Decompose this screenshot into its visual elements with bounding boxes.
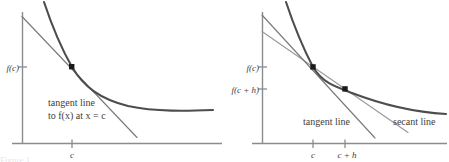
figure-root: f(c) c tangent line to f(x) at x = c f(c… [0, 0, 449, 162]
function-curve [286, 2, 446, 114]
secant-line-label: secant line [393, 116, 436, 127]
y-tick-label-fch: f(c + h) [231, 85, 259, 95]
figure-caption: Figure 1 [0, 155, 449, 162]
point-c-marker [310, 64, 315, 69]
tangent-line-panel: f(c) c tangent line to f(x) at x = c [0, 0, 225, 162]
tangent-line-label: tangent line [303, 116, 350, 127]
y-tick-label-fc: f(c) [7, 63, 20, 73]
point-c-marker [69, 64, 74, 69]
y-tick-label-fc: f(c) [247, 63, 260, 73]
function-curve [44, 2, 213, 111]
tangent-line-label-line2: to f(x) at x = c [48, 110, 106, 122]
point-c-plus-h-marker [342, 86, 347, 91]
secant-line-panel: f(c) f(c + h) c c + h tangent line secan… [225, 0, 449, 162]
tangent-line-label-line1: tangent line [48, 97, 95, 108]
